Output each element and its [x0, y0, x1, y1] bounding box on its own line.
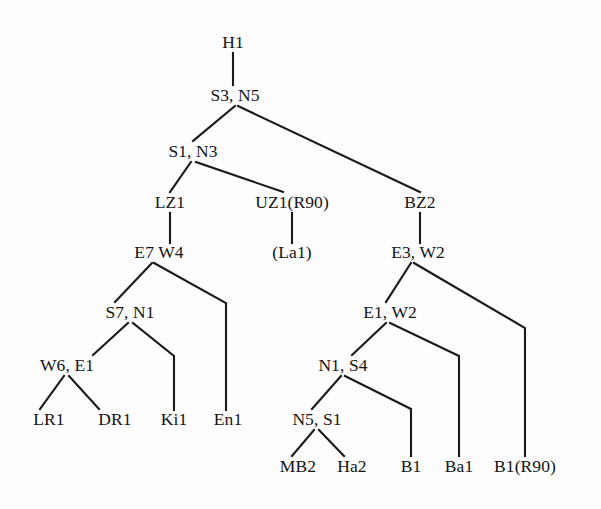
tree-node-ki1: Ki1: [161, 411, 188, 429]
tree-edge-e1w2-to-n1s4: [352, 323, 386, 355]
tree-node-ha2: Ha2: [337, 458, 366, 476]
tree-edge-n5s1-to-mb2: [292, 430, 314, 456]
tree-diagram: H1S3, N5S1, N3LZ1UZ1(R90)BZ2E7 W4(La1)E3…: [0, 0, 601, 509]
tree-edge-n1s4-to-b1: [345, 376, 411, 456]
tree-node-en1: En1: [214, 411, 243, 429]
tree-node-mb2: MB2: [280, 458, 316, 476]
tree-node-lr1: LR1: [33, 411, 64, 429]
tree-node-b1: B1: [401, 458, 422, 476]
tree-edge-n1s4-to-n5s1: [312, 376, 341, 409]
tree-node-b1r90: B1(R90): [494, 458, 556, 476]
tree-edge-e3w2-to-b1r90: [414, 263, 525, 456]
tree-edge-w6e1-to-dr1: [69, 376, 99, 409]
tree-node-n5s1: N5, S1: [292, 411, 341, 429]
tree-edge-e7w4-to-s7n1: [115, 263, 152, 302]
tree-node-e1w2: E1, W2: [363, 304, 417, 322]
tree-edge-e3w2-to-e1w2: [386, 263, 411, 302]
tree-node-e7w4: E7 W4: [134, 244, 183, 262]
tree-node-uz1r90: UZ1(R90): [255, 194, 329, 212]
tree-node-n1s4: N1, S4: [318, 357, 367, 375]
tree-edge-s3n5-to-bz2: [238, 106, 420, 192]
tree-node-w6e1: W6, E1: [40, 357, 94, 375]
tree-node-s7n1: S7, N1: [105, 304, 154, 322]
tree-node-s3n5: S3, N5: [210, 87, 259, 105]
tree-edge-s1n3-to-uz1r90: [196, 162, 283, 192]
tree-edge-s7n1-to-w6e1: [93, 323, 128, 355]
tree-node-h1: H1: [222, 34, 244, 52]
tree-edge-s3n5-to-s1n3: [193, 106, 235, 141]
tree-edge-n5s1-to-ha2: [319, 430, 344, 456]
tree-node-s1n3: S1, N3: [168, 143, 217, 161]
tree-edge-e7w4-to-en1: [154, 263, 226, 410]
tree-node-e3w2: E3, W2: [391, 244, 445, 262]
tree-edge-w6e1-to-lr1: [40, 376, 64, 409]
tree-node-lz1: LZ1: [155, 194, 185, 212]
tree-node-la1: (La1): [272, 244, 311, 262]
tree-edge-s7n1-to-ki1: [133, 323, 174, 410]
tree-edge-e1w2-to-ba1: [390, 323, 459, 456]
tree-node-dr1: DR1: [98, 411, 131, 429]
tree-node-ba1: Ba1: [445, 458, 474, 476]
tree-node-bz2: BZ2: [404, 194, 435, 212]
tree-edge-s1n3-to-lz1: [170, 162, 191, 192]
